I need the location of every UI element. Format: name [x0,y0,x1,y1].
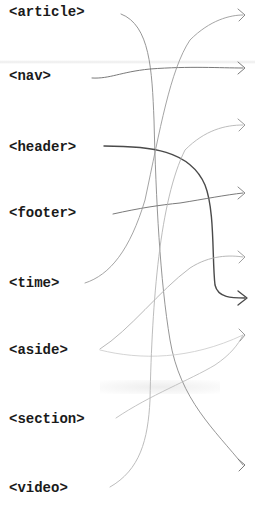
line-aside [100,256,243,349]
line-video [110,125,243,487]
connection-lines [0,0,255,507]
line-header [104,146,245,298]
line-footer [113,193,243,214]
line-section [116,335,243,418]
line-nav [92,67,243,78]
line-aside-faint [100,335,243,356]
line-article [121,14,243,465]
line-time [85,15,243,283]
